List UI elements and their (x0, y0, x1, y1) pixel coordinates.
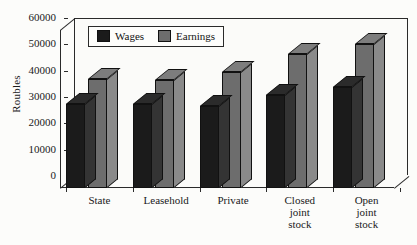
legend-label: Wages (115, 31, 144, 42)
y-tick-label: 60000 (10, 12, 56, 23)
bar-face-side (285, 86, 296, 188)
bar-wages (66, 104, 85, 188)
y-tick-label: 10000 (10, 144, 56, 155)
chart-legend: WagesEarnings (88, 26, 224, 47)
y-tick-label: 40000 (10, 65, 56, 76)
x-tick-mark (266, 188, 267, 192)
x-tick-label-line: joint (329, 206, 405, 218)
x-tick-label: Openjointstock (329, 194, 405, 230)
legend-item: Wages (97, 30, 144, 42)
y-axis-tick-labels: 0100002000030000400005000060000 (8, 0, 56, 245)
legend-label: Earnings (176, 31, 215, 42)
y-tick-label: 0 (10, 170, 56, 181)
bar-face-front (266, 95, 285, 188)
bar-face-side (374, 36, 385, 188)
bar-face-side (152, 95, 163, 188)
bar-wages (266, 95, 285, 188)
bar-face-side (85, 95, 96, 188)
bar-face-side (307, 45, 318, 188)
chart-figure: Roubles 0100002000030000400005000060000 … (0, 0, 417, 245)
y-tick-label: 20000 (10, 117, 56, 128)
x-tick-label-line: joint (262, 206, 338, 218)
y-tick-label: 30000 (10, 91, 56, 102)
y-tick-label: 50000 (10, 38, 56, 49)
bar-wages (133, 104, 152, 188)
bar-wages (333, 87, 352, 188)
x-tick-label-line: Open (329, 194, 405, 206)
bar-face-side (107, 70, 118, 188)
bar-face-side (219, 97, 230, 188)
legend-swatch-wages (97, 30, 110, 42)
x-tick-label: Private (195, 194, 271, 206)
bar-wages (200, 106, 219, 188)
x-tick-mark (66, 188, 67, 192)
x-tick-label: State (61, 194, 137, 206)
bar-face-side (174, 71, 185, 188)
bar-face-front (66, 104, 85, 188)
legend-swatch-earnings (158, 30, 171, 42)
x-axis-tick-marks (60, 188, 408, 193)
x-tick-label: Closedjointstock (262, 194, 338, 230)
plot-area: WagesEarnings (60, 18, 408, 190)
x-tick-mark (133, 188, 134, 192)
x-tick-label-line: Leasehold (128, 194, 204, 206)
bar-face-front (133, 104, 152, 188)
bar-face-side (352, 78, 363, 188)
x-tick-label-line: Closed (262, 194, 338, 206)
bar-face-front (200, 106, 219, 188)
bar-face-front (333, 87, 352, 188)
x-tick-label-line: State (61, 194, 137, 206)
x-tick-label-line: Private (195, 194, 271, 206)
x-tick-mark (333, 188, 334, 192)
bar-face-side (241, 63, 252, 188)
x-tick-mark (200, 188, 201, 192)
x-tick-mark (400, 188, 401, 192)
x-tick-label-line: stock (262, 218, 338, 230)
x-tick-label: Leasehold (128, 194, 204, 206)
legend-item: Earnings (158, 30, 215, 42)
x-tick-label-line: stock (329, 218, 405, 230)
